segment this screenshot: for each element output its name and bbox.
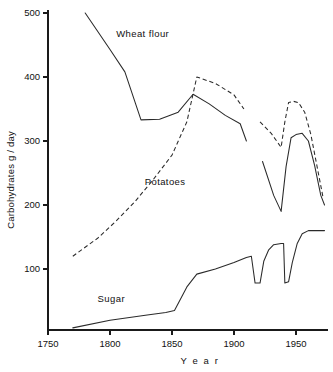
- y-tick-label: 200: [24, 199, 40, 210]
- y-axis-tick-labels: 100200300400500: [24, 7, 40, 274]
- x-tick-label: 1900: [223, 338, 244, 349]
- y-axis-title: Carbohydrates g / day: [5, 131, 16, 229]
- x-tick-label: 1750: [37, 338, 58, 349]
- series-annotations-group: Wheat flourPotatoesSugar: [98, 28, 186, 304]
- y-tick-label: 500: [24, 7, 40, 18]
- x-tick-label: 1800: [99, 338, 120, 349]
- x-tick-label: 1850: [161, 338, 182, 349]
- series-label-wheat-flour: Wheat flour: [116, 28, 169, 39]
- x-axis-title: Y e a r: [180, 355, 219, 366]
- x-axis-tick-labels: 17501800185019001950: [37, 338, 306, 349]
- series-line-potatoes: [73, 77, 244, 256]
- chart-container: 100200300400500 17501800185019001950 Whe…: [0, 0, 333, 372]
- y-axis: 100200300400500: [24, 7, 48, 330]
- series-label-sugar: Sugar: [98, 293, 125, 304]
- y-axis-ticks: [43, 13, 48, 269]
- y-tick-label: 400: [24, 71, 40, 82]
- carbohydrates-line-chart: 100200300400500 17501800185019001950 Whe…: [0, 0, 333, 372]
- x-axis: 17501800185019001950: [37, 330, 328, 349]
- x-tick-label: 1950: [285, 338, 306, 349]
- y-tick-label: 300: [24, 135, 40, 146]
- data-series-group: [73, 13, 325, 328]
- series-label-potatoes: Potatoes: [145, 176, 186, 187]
- x-axis-ticks: [48, 330, 296, 335]
- y-tick-label: 100: [24, 263, 40, 274]
- series-line-wheat-flour: [263, 133, 325, 211]
- series-line-sugar: [73, 231, 325, 328]
